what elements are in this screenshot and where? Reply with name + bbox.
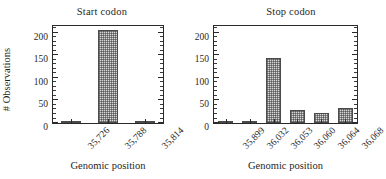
y-tick-major — [214, 54, 219, 55]
y-tick-minor — [214, 41, 217, 42]
plot-area-stop-codon: 050100150200 — [213, 25, 358, 124]
x-tick-label: 35,726 — [87, 126, 112, 151]
y-tick-minor — [53, 59, 56, 60]
y-tick-minor-right — [354, 41, 357, 42]
x-tick-label: 36,060 — [313, 126, 338, 151]
y-tick-minor — [53, 86, 56, 87]
y-tick-minor — [214, 113, 217, 114]
y-tick-minor-right — [354, 36, 357, 37]
y-tick-minor-right — [160, 90, 163, 91]
y-axis-title-start: # Observations — [1, 30, 12, 130]
y-tick-minor — [53, 95, 56, 96]
y-tick-minor-right — [354, 90, 357, 91]
y-tick-minor-right — [160, 118, 163, 119]
panel-stop-codon: Stop codon 050100150200 35,89936,03236,0… — [186, 0, 386, 179]
y-tick-minor — [53, 108, 56, 109]
y-tick-major — [214, 99, 219, 100]
panel-start-codon: Start codon # Observations 050100150200 … — [0, 0, 186, 179]
y-tick-minor-right — [354, 59, 357, 60]
x-tick-mark — [108, 119, 109, 123]
y-tick-minor — [214, 63, 217, 64]
y-tick-minor — [53, 81, 56, 82]
x-tick-label: 36,068 — [361, 126, 386, 151]
y-tick-minor-right — [160, 81, 163, 82]
y-tick-minor-right — [160, 108, 163, 109]
y-tick-minor — [53, 68, 56, 69]
y-tick-major — [214, 32, 219, 33]
y-tick-minor-right — [354, 45, 357, 46]
x-axis-title-start: Genomic position — [52, 160, 164, 171]
y-tick-minor — [53, 90, 56, 91]
y-tick-minor-right — [160, 59, 163, 60]
y-tick-minor — [53, 63, 56, 64]
panel-title-start-codon: Start codon — [0, 6, 186, 17]
y-tick-major-right — [158, 122, 163, 123]
y-tick-major-right — [352, 122, 357, 123]
y-tick-minor-right — [160, 86, 163, 87]
y-tick-major — [214, 77, 219, 78]
y-tick-minor-right — [354, 68, 357, 69]
figure-bar-charts: Start codon # Observations 050100150200 … — [0, 0, 386, 179]
y-tick-minor — [214, 36, 217, 37]
bars-start-codon — [53, 26, 163, 123]
x-axis-title-stop: Genomic position — [213, 160, 358, 171]
y-tick-minor-right — [354, 118, 357, 119]
x-tick-mark — [226, 119, 227, 123]
y-tick-minor — [214, 95, 217, 96]
y-tick-minor — [53, 72, 56, 73]
y-tick-minor-right — [354, 104, 357, 105]
bar — [98, 30, 118, 123]
y-tick-major — [214, 122, 219, 123]
y-tick-minor-right — [354, 50, 357, 51]
y-tick-major-right — [352, 32, 357, 33]
y-tick-minor — [214, 108, 217, 109]
y-tick-minor — [53, 50, 56, 51]
y-tick-minor-right — [354, 81, 357, 82]
y-tick-minor-right — [354, 113, 357, 114]
x-tick-mark — [274, 119, 275, 123]
y-tick-minor-right — [354, 108, 357, 109]
y-tick-minor-right — [354, 86, 357, 87]
y-tick-minor — [53, 36, 56, 37]
y-tick-minor — [214, 118, 217, 119]
y-tick-minor — [214, 81, 217, 82]
y-tick-minor — [53, 113, 56, 114]
y-tick-major-right — [158, 54, 163, 55]
y-tick-minor — [53, 41, 56, 42]
y-tick-minor-right — [160, 50, 163, 51]
y-tick-minor — [53, 104, 56, 105]
x-tick-label: 36,032 — [265, 126, 290, 151]
x-tick-mark — [297, 119, 298, 123]
y-tick-major-right — [352, 77, 357, 78]
y-tick-minor-right — [354, 63, 357, 64]
y-tick-minor — [214, 45, 217, 46]
x-tick-mark — [345, 119, 346, 123]
y-tick-minor-right — [160, 41, 163, 42]
x-tick-label: 35,899 — [242, 126, 267, 151]
y-tick-minor — [53, 27, 56, 28]
y-tick-major — [53, 122, 58, 123]
x-tick-mark — [321, 119, 322, 123]
y-tick-minor-right — [354, 27, 357, 28]
y-tick-minor-right — [160, 63, 163, 64]
y-tick-major-right — [158, 32, 163, 33]
x-tick-mark — [71, 119, 72, 123]
y-tick-major — [53, 32, 58, 33]
y-tick-minor — [214, 86, 217, 87]
y-tick-major — [53, 54, 58, 55]
bars-stop-codon — [214, 26, 357, 123]
y-tick-minor-right — [160, 45, 163, 46]
y-tick-minor-right — [354, 95, 357, 96]
y-tick-minor — [53, 45, 56, 46]
y-tick-minor-right — [354, 72, 357, 73]
y-tick-major-right — [352, 99, 357, 100]
plot-area-start-codon: 050100150200 — [52, 25, 164, 124]
y-tick-minor — [214, 59, 217, 60]
y-tick-major — [53, 99, 58, 100]
y-tick-minor — [214, 90, 217, 91]
y-tick-minor-right — [160, 36, 163, 37]
y-tick-minor — [214, 72, 217, 73]
y-tick-minor-right — [160, 113, 163, 114]
y-tick-major-right — [352, 54, 357, 55]
x-tick-mark — [145, 119, 146, 123]
